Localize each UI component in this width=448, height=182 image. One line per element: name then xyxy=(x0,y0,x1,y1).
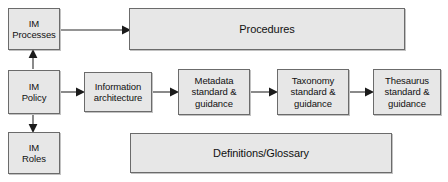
connector-policy-to-information-architecture xyxy=(61,88,85,97)
node-thesaurus-standard-guidance-label: Thesaurus standard & guidance xyxy=(383,75,432,110)
node-im-processes: IM Processes xyxy=(8,8,60,50)
node-metadata-standard-guidance-label: Metadata standard & guidance xyxy=(190,75,239,110)
node-information-architecture: Information architecture xyxy=(84,72,152,112)
node-im-roles: IM Roles xyxy=(8,132,60,174)
node-definitions-glossary-label: Definitions/Glossary xyxy=(211,147,311,160)
node-im-policy: IM Policy xyxy=(8,70,60,114)
node-taxonomy-standard-guidance-label: Taxonomy standard & guidance xyxy=(289,75,338,110)
node-procedures-label: Procedures xyxy=(237,23,296,36)
connector-information-architecture-to-metadata xyxy=(153,88,179,97)
node-thesaurus-standard-guidance: Thesaurus standard & guidance xyxy=(373,69,441,115)
node-im-processes-label: IM Processes xyxy=(10,18,57,41)
connector-taxonomy-to-thesaurus xyxy=(350,88,374,97)
diagram-canvas: IM Processes Procedures IM Policy Inform… xyxy=(0,0,448,182)
node-taxonomy-standard-guidance: Taxonomy standard & guidance xyxy=(277,69,349,115)
node-definitions-glossary: Definitions/Glossary xyxy=(130,133,392,173)
connector-policy-to-processes xyxy=(29,49,38,69)
connector-metadata-to-taxonomy xyxy=(251,88,278,97)
node-metadata-standard-guidance: Metadata standard & guidance xyxy=(178,69,250,115)
node-im-policy-label: IM Policy xyxy=(20,81,49,104)
node-information-architecture-label: Information architecture xyxy=(92,81,144,104)
node-im-roles-label: IM Roles xyxy=(20,142,48,165)
connector-processes-to-procedures xyxy=(61,26,131,35)
connector-policy-to-roles xyxy=(29,115,38,133)
node-procedures: Procedures xyxy=(129,8,405,50)
